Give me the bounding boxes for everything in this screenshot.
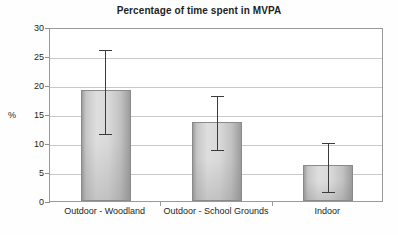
bar — [81, 90, 131, 201]
y-axis-tick-label: 15 — [14, 111, 44, 120]
x-axis-category-label: Outdoor - School Grounds — [160, 207, 271, 217]
y-axis-tick-label: 30 — [14, 24, 44, 33]
y-axis-tick-label: 0 — [14, 198, 44, 207]
bar — [303, 165, 353, 201]
chart-container: Percentage of time spent in MVPA % 30252… — [0, 0, 398, 235]
x-axis-tick-mark — [160, 202, 161, 206]
error-bar-cap-top — [211, 96, 224, 97]
x-axis-category-label: Indoor — [272, 207, 383, 217]
y-axis-tick-label: 10 — [14, 140, 44, 149]
gridline — [50, 87, 382, 88]
error-bar-cap-top — [322, 143, 335, 144]
chart-title: Percentage of time spent in MVPA — [0, 5, 398, 16]
x-axis-tick-mark — [272, 202, 273, 206]
y-axis-tick-label: 20 — [14, 82, 44, 91]
bar — [192, 122, 242, 201]
y-axis-tick-label: 5 — [14, 169, 44, 178]
y-axis-tick-label: 25 — [14, 53, 44, 62]
y-axis-tick-mark — [45, 202, 50, 203]
plot-area — [49, 28, 383, 202]
gridline — [50, 58, 382, 59]
x-axis-category-label: Outdoor - Woodland — [49, 207, 160, 217]
error-bar-cap-top — [99, 50, 112, 51]
